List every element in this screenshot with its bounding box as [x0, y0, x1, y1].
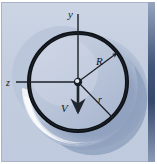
right-edge-strip — [148, 2, 155, 162]
wheel-diagram: y z R r V — [0, 0, 157, 164]
figure-container: y z R r V — [0, 0, 157, 164]
R-radius-label: R — [95, 55, 103, 67]
r-radius-label: r — [98, 94, 102, 105]
z-axis-label: z — [5, 77, 10, 88]
y-axis-label: y — [67, 8, 73, 20]
hub-inner-highlight — [75, 79, 79, 83]
